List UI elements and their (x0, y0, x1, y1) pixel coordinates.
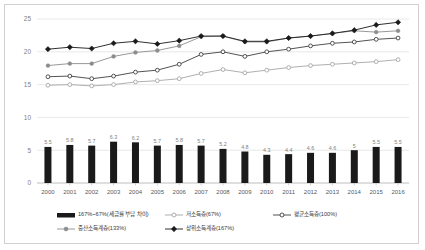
data-point-marker (46, 75, 50, 79)
data-point-marker (155, 79, 159, 83)
data-point-marker (90, 77, 94, 81)
data-point-marker (177, 77, 181, 81)
legend-swatch-filled-circle (57, 225, 75, 233)
legend-item[interactable]: 저소득층(67%) (165, 208, 221, 221)
data-point-marker (46, 83, 50, 87)
x-axis-tick-label: 2008 (216, 189, 230, 195)
data-point-marker (112, 83, 116, 87)
data-point-marker (330, 31, 335, 36)
legend-swatch-open-circle (165, 211, 183, 219)
x-axis-tick-label: 2013 (326, 189, 340, 195)
data-point-marker (112, 54, 116, 58)
bar (373, 147, 380, 183)
data-point-marker (134, 70, 138, 74)
legend-item[interactable]: 중산소득계층(133%) (57, 222, 126, 235)
bar (44, 147, 51, 183)
x-axis-tick-label: 2000 (41, 189, 55, 195)
data-point-marker (243, 71, 247, 75)
line-series (48, 60, 398, 86)
bar (285, 154, 292, 183)
data-point-marker (68, 83, 72, 87)
data-point-marker (243, 54, 247, 58)
y-axis-tick-label: 10 (24, 114, 32, 121)
data-point-marker (265, 68, 269, 72)
data-point-marker (265, 50, 269, 54)
bar (66, 145, 73, 183)
legend-item[interactable]: 평균소득층(100%) (273, 208, 337, 221)
data-point-marker (308, 33, 313, 38)
legend-item-label: 167%~67%(세금률 부담 차이) (78, 208, 149, 221)
bar (241, 152, 248, 183)
data-point-marker (68, 74, 72, 78)
data-point-marker (395, 20, 400, 25)
bar (220, 149, 227, 183)
bar-value-label: 4.8 (241, 144, 249, 150)
legend-item[interactable]: 상위소득계층(167%) (165, 222, 234, 235)
data-point-marker (68, 62, 72, 66)
bar-value-label: 6.3 (110, 134, 118, 140)
data-point-marker (309, 64, 313, 68)
x-axis-tick-label: 2003 (107, 189, 121, 195)
bar-value-label: 4.6 (307, 145, 315, 151)
data-point-marker (331, 62, 335, 66)
bar (132, 142, 139, 183)
bar (307, 153, 314, 183)
data-point-marker (177, 44, 181, 48)
bar-value-label: 6.2 (132, 135, 140, 141)
legend-swatch-open-circle (273, 211, 291, 219)
bar (198, 146, 205, 183)
data-point-marker (287, 66, 291, 70)
x-axis-tick-label: 2004 (129, 189, 143, 195)
data-point-marker (396, 58, 400, 62)
bar-value-label: 5.5 (394, 139, 402, 145)
data-point-marker (155, 68, 159, 72)
y-axis-tick-label: 20 (24, 48, 32, 55)
data-point-marker (352, 40, 356, 44)
legend-item-label: 중산소득계층(133%) (78, 222, 126, 235)
y-axis-tick-label: 5 (27, 147, 31, 154)
bar-value-label: 5.7 (88, 138, 96, 144)
data-point-marker (155, 49, 159, 53)
bar (176, 145, 183, 183)
x-axis-tick-label: 2012 (304, 189, 318, 195)
x-axis-tick-label: 2011 (282, 189, 296, 195)
data-point-marker (177, 38, 182, 43)
legend-item-label: 저소득층(67%) (186, 208, 221, 221)
bar (88, 146, 95, 183)
data-point-marker (374, 60, 378, 64)
data-point-marker (352, 61, 356, 65)
data-point-marker (45, 47, 50, 52)
data-point-marker (264, 39, 269, 44)
legend-item-label: 평균소득층(100%) (294, 208, 337, 221)
combo-chart: 05101520255.55.85.76.36.25.75.85.75.24.8… (5, 5, 418, 204)
bar (110, 142, 117, 183)
legend-swatch-bar (57, 211, 75, 219)
bar-value-label: 4.6 (329, 145, 337, 151)
data-point-marker (221, 50, 225, 54)
chart-frame: 05101520255.55.85.76.36.25.75.85.75.24.8… (4, 4, 419, 244)
data-point-marker (134, 51, 138, 55)
x-axis-tick-label: 2015 (369, 189, 383, 195)
y-axis-tick-label: 25 (24, 15, 32, 22)
bar (263, 155, 270, 183)
bar-value-label: 4.3 (263, 147, 271, 153)
data-point-marker (396, 36, 400, 40)
legend-swatch-diamond (165, 225, 183, 233)
data-point-marker (309, 44, 313, 48)
x-axis-tick-label: 2005 (151, 189, 165, 195)
line-series (48, 38, 398, 79)
data-point-marker (374, 22, 379, 27)
data-point-marker (89, 46, 94, 51)
data-point-marker (199, 72, 203, 76)
y-axis-tick-label: 0 (27, 179, 31, 186)
x-axis-tick-label: 2006 (173, 189, 187, 195)
bar-value-label: 5.8 (175, 137, 183, 143)
data-point-marker (396, 29, 400, 33)
data-point-marker (199, 53, 203, 57)
x-axis-tick-label: 2014 (348, 189, 362, 195)
data-point-marker (67, 45, 72, 50)
legend-item[interactable]: 167%~67%(세금률 부담 차이) (57, 208, 149, 221)
legend-item-label: 상위소득계층(167%) (186, 222, 234, 235)
bar-value-label: 5.5 (372, 139, 380, 145)
x-axis-tick-label: 2010 (260, 189, 274, 195)
